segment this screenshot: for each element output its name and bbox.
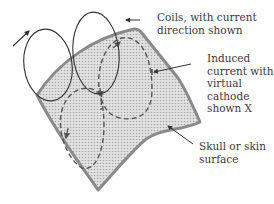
induced-current-label: Induced current with virtual cathode sho… <box>207 52 274 115</box>
surface-label: Skull or skin surface <box>199 140 266 165</box>
coils-label: Coils, with current direction shown <box>157 11 257 36</box>
